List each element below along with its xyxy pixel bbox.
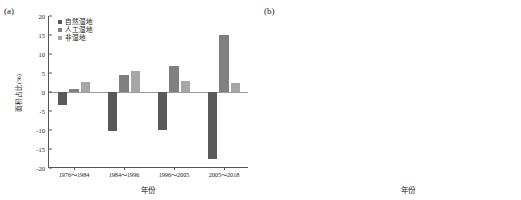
y-tick-label: -5 — [40, 108, 49, 115]
y-tick-mark — [49, 130, 52, 131]
figure-container: (a) 面积占比(%) 年份 20151050-5-10-15-20 1976～… — [0, 0, 521, 200]
y-tick-mark — [49, 168, 52, 169]
x-tick-label: 2005～2018 — [209, 170, 240, 179]
bar-人工湿地-1984～1996 — [119, 75, 129, 92]
bar-非湿地-1984～1996 — [131, 71, 141, 92]
y-tick-mark — [49, 54, 52, 55]
bar-人工湿地-1996～2005 — [169, 66, 179, 92]
x-tick-mark — [124, 167, 125, 170]
x-tick-label: 1976～1984 — [59, 170, 90, 179]
bar-人工湿地-1976～1984 — [69, 89, 79, 92]
bar-自然湿地-1976～1984 — [58, 92, 68, 105]
y-tick-mark — [49, 16, 52, 17]
legend-label: 非湿地 — [65, 35, 86, 42]
legend-item-自然湿地[interactable]: 自然湿地 — [58, 18, 93, 26]
bar-自然湿地-1996～2005 — [158, 92, 168, 130]
panel-b: (b) 面积占比(%) 年份 80706050403020100 1976198… — [260, 0, 521, 200]
bar-非湿地-1996～2005 — [181, 81, 191, 92]
panel-a: (a) 面积占比(%) 年份 20151050-5-10-15-20 1976～… — [0, 0, 260, 200]
y-tick-mark — [49, 111, 52, 112]
y-tick-label: 10 — [39, 51, 50, 58]
panel-b-label: (b) — [264, 6, 275, 16]
legend-label: 自然湿地 — [65, 19, 93, 26]
bar-人工湿地-2005～2018 — [219, 35, 229, 92]
y-tick-mark — [49, 35, 52, 36]
panel-a-legend: 自然湿地人工湿地非湿地 — [58, 18, 93, 42]
panel-a-y-axis-title: 面积占比(%) — [13, 63, 23, 123]
bar-非湿地-1976～1984 — [81, 82, 91, 92]
legend-swatch-icon — [58, 36, 62, 40]
legend-item-非湿地[interactable]: 非湿地 — [58, 34, 93, 42]
legend-swatch-icon — [58, 28, 62, 32]
y-tick-mark — [49, 149, 52, 150]
y-tick-label: 0 — [42, 89, 49, 96]
y-tick-label: -15 — [36, 146, 49, 153]
panel-a-zero-line — [49, 92, 248, 93]
x-tick-mark — [174, 167, 175, 170]
bar-自然湿地-1984～1996 — [108, 92, 118, 131]
bar-自然湿地-2005～2018 — [208, 92, 218, 159]
y-tick-label: 15 — [39, 32, 50, 39]
bar-非湿地-2005～2018 — [231, 83, 241, 92]
x-tick-label: 1984～1996 — [109, 170, 140, 179]
legend-label: 人工湿地 — [65, 27, 93, 34]
y-tick-label: -20 — [36, 165, 49, 172]
x-tick-mark — [74, 167, 75, 170]
x-tick-label: 1996～2005 — [159, 170, 190, 179]
panel-b-x-axis-title: 年份 — [401, 184, 415, 195]
y-tick-mark — [49, 92, 52, 93]
y-tick-mark — [49, 73, 52, 74]
panel-a-label: (a) — [4, 6, 14, 16]
y-tick-label: 20 — [39, 13, 50, 20]
legend-swatch-icon — [58, 20, 62, 24]
x-tick-mark — [224, 167, 225, 170]
y-tick-label: 5 — [42, 70, 49, 77]
legend-item-人工湿地[interactable]: 人工湿地 — [58, 26, 93, 34]
y-tick-label: -10 — [36, 127, 49, 134]
panel-a-x-axis-title: 年份 — [141, 184, 155, 195]
